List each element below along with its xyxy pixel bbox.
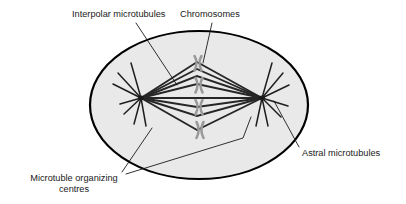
label-mtoc-line-1: Microtuble organizing <box>30 173 117 183</box>
label-astral-microtubules: Astral microtubules <box>302 148 381 158</box>
label-chromosomes: Chromosomes <box>180 9 240 19</box>
mitotic-spindle-diagram: Interpolar microtubules Chromosomes Astr… <box>0 0 406 204</box>
mtoc-left <box>138 96 144 101</box>
label-mtoc-line-2: centres <box>59 184 90 194</box>
mtoc-right <box>259 96 265 101</box>
cell-membrane <box>90 31 308 179</box>
diagram-canvas: Interpolar microtubules Chromosomes Astr… <box>0 0 406 204</box>
label-interpolar-microtubules: Interpolar microtubules <box>72 9 166 19</box>
